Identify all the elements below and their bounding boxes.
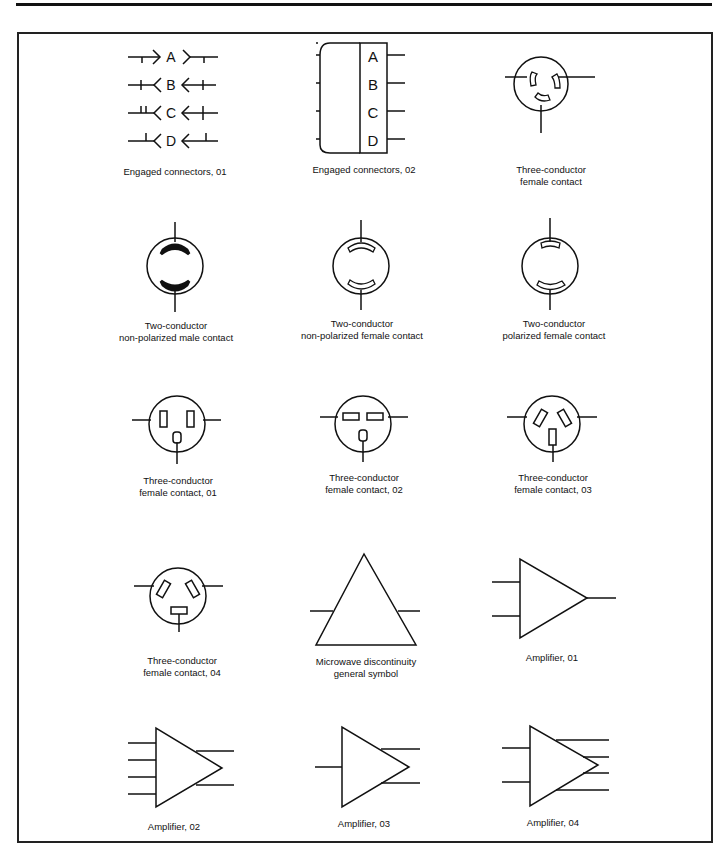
three-conductor-female-contact-01-icon: [132, 396, 221, 464]
caption-amplifier-01: Amplifier, 01: [432, 652, 672, 664]
amplifier-02-icon: [128, 728, 234, 807]
three-conductor-female-contact-04-icon: [134, 568, 223, 632]
connector-letter-d: D: [368, 132, 379, 149]
connector-letter-c: C: [368, 104, 379, 121]
microwave-discontinuity-icon: [310, 554, 420, 645]
caption-amplifier-04: Amplifier, 04: [433, 817, 673, 829]
caption-three-conductor-female-contact: Three-conductor female contact: [431, 164, 671, 188]
connector-letter-b: B: [166, 77, 175, 93]
three-conductor-female-contact-icon: [505, 57, 595, 133]
connector-letter-b: B: [368, 76, 378, 93]
connector-letter-a: A: [368, 48, 378, 65]
amplifier-03-icon: [315, 727, 420, 807]
symbols-canvas: [0, 0, 726, 861]
two-conductor-non-polarized-female-contact-icon: [333, 220, 389, 310]
caption-three-conductor-03: Three-conductor female contact, 03: [433, 472, 673, 496]
connector-letter-c: C: [166, 105, 176, 121]
amplifier-04-icon: [502, 726, 609, 806]
engaged-connectors-02-icon: [316, 43, 405, 153]
connector-letter-d: D: [166, 133, 176, 149]
two-conductor-polarized-female-contact-icon: [522, 218, 578, 310]
caption-two-conductor-polarized-female: Two-conductor polarized female contact: [434, 318, 674, 342]
two-conductor-non-polarized-male-contact-icon: [147, 222, 203, 312]
three-conductor-female-contact-03-icon: [507, 396, 597, 462]
connector-letter-a: A: [166, 49, 175, 65]
three-conductor-female-contact-02-icon: [320, 396, 408, 462]
amplifier-01-icon: [492, 559, 616, 638]
